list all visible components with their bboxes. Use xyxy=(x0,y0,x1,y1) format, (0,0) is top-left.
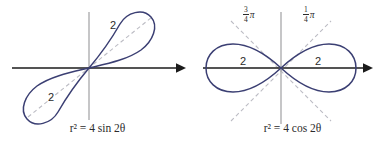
fraction-denominator: 4 xyxy=(303,16,309,24)
fraction-3-over-4: 3 4 xyxy=(243,6,249,23)
lobe-label-left: 2 xyxy=(240,55,246,67)
figure-panel-cos: 2 2 r² = 4 cos 2θ xyxy=(195,0,390,144)
fraction-numerator: 3 xyxy=(243,6,249,14)
angle-label-3pi-over-4: 3 4 π xyxy=(243,6,255,23)
fraction-numerator: 1 xyxy=(303,6,309,14)
lobe-label-lower: 2 xyxy=(48,91,54,103)
equation-label-sin: r² = 4 sin 2θ xyxy=(0,122,195,134)
fraction-denominator: 4 xyxy=(243,16,249,24)
angle-label-pi-over-4: 1 4 π xyxy=(303,6,315,23)
lobe-label-right: 2 xyxy=(315,55,321,67)
pi-symbol: π xyxy=(310,10,315,20)
lobe-label-upper: 2 xyxy=(110,19,116,31)
figure-panel-sin: 2 2 r² = 4 sin 2θ xyxy=(0,0,195,144)
x-axis-arrow-icon xyxy=(176,63,186,72)
equation-label-cos: r² = 4 cos 2θ xyxy=(195,122,390,134)
fraction-1-over-4: 1 4 xyxy=(303,6,309,23)
x-axis-arrow-icon xyxy=(363,63,373,72)
pi-symbol: π xyxy=(250,10,255,20)
lemniscate-figure-pair: 2 2 r² = 4 sin 2θ 2 2 r² = 4 cos 2θ xyxy=(0,0,390,144)
